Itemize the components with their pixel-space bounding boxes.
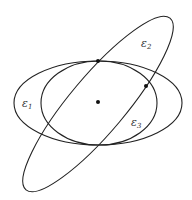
label-e1: ε1 <box>22 97 32 111</box>
top-tangent-point <box>96 59 100 63</box>
label-e2: ε2 <box>141 37 152 51</box>
ellipse-diagram: ε1 ε2 ε3 <box>0 0 192 200</box>
center-point <box>96 100 100 104</box>
right-intersection-point <box>144 84 148 88</box>
label-e3: ε3 <box>131 116 142 130</box>
